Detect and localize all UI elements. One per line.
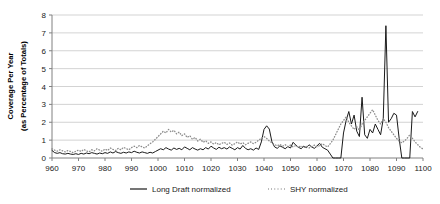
y-tick-label-4: 4 <box>42 83 47 92</box>
x-tick-label-1100: 1100 <box>414 164 432 173</box>
x-tick-label-1060: 1060 <box>308 164 326 173</box>
x-tick-label-990: 990 <box>125 164 139 173</box>
y-tick-label-6: 6 <box>42 47 47 56</box>
x-tick-label-1090: 1090 <box>388 164 406 173</box>
x-tick-label-1040: 1040 <box>255 164 273 173</box>
x-tick-label-1020: 1020 <box>202 164 220 173</box>
legend-label-shy: SHY normalized <box>290 185 348 194</box>
y-tick-label-0: 0 <box>42 154 47 163</box>
chart-container: 012345678 960970980990100010101020103010… <box>0 0 440 204</box>
x-tick-label-1070: 1070 <box>335 164 353 173</box>
x-tick-label-980: 980 <box>98 164 112 173</box>
y-tick-label-8: 8 <box>42 11 47 20</box>
y-tick-label-5: 5 <box>42 65 47 74</box>
y-axis-title-line2: (as Percentage of Totals) <box>19 41 28 131</box>
y-axis-tick-labels: 012345678 <box>42 11 47 163</box>
x-tick-label-1000: 1000 <box>149 164 167 173</box>
x-tick-label-1080: 1080 <box>361 164 379 173</box>
x-axis-tick-labels: 9609709809901000101010201030104010501060… <box>45 164 432 173</box>
y-axis-title-line1: Coverage Per Year <box>6 52 15 119</box>
coverage-per-year-line-chart: 012345678 960970980990100010101020103010… <box>0 0 440 204</box>
x-tick-label-1030: 1030 <box>229 164 247 173</box>
x-tick-label-970: 970 <box>72 164 86 173</box>
y-tick-label-1: 1 <box>42 136 47 145</box>
x-tick-label-1010: 1010 <box>176 164 194 173</box>
y-tick-label-7: 7 <box>42 29 47 38</box>
y-tick-label-3: 3 <box>42 100 47 109</box>
legend-label-long-draft: Long Draft normalized <box>152 185 231 194</box>
x-tick-label-1050: 1050 <box>282 164 300 173</box>
y-tick-label-2: 2 <box>42 118 47 127</box>
chart-background <box>0 0 440 204</box>
x-tick-label-960: 960 <box>45 164 59 173</box>
